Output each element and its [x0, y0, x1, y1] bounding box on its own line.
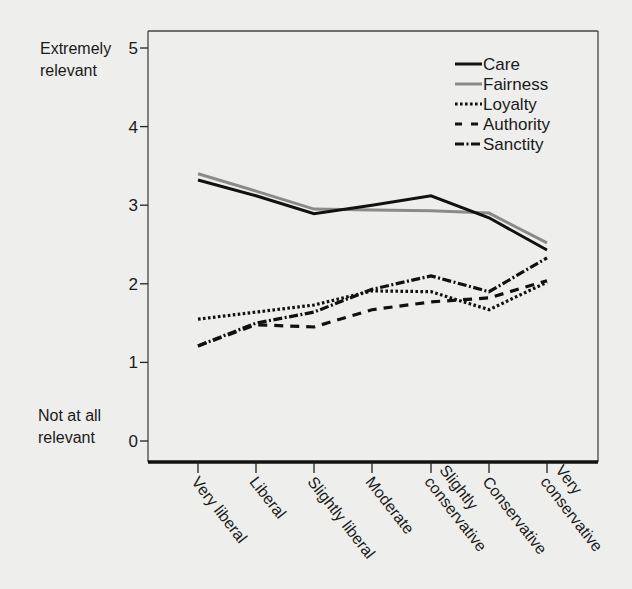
- legend-item-care: Care: [455, 55, 520, 74]
- legend-label: Loyalty: [483, 95, 537, 114]
- y-anchor-label-bottom: relevant: [38, 429, 95, 446]
- y-tick-label: 0: [129, 432, 138, 451]
- x-tick-label: Moderate: [362, 473, 417, 537]
- x-tick-label: Liberal: [246, 473, 289, 521]
- svg-text:Moderate: Moderate: [362, 473, 417, 537]
- y-tick-label: 3: [129, 196, 138, 215]
- legend-label: Sanctity: [483, 135, 544, 154]
- series-fairness-line: [198, 174, 547, 243]
- chart: 012345ExtremelyrelevantNot at allrelevan…: [0, 0, 632, 589]
- y-tick-label: 5: [129, 39, 138, 58]
- legend-label: Fairness: [483, 75, 548, 94]
- x-axis: Very liberalLiberalSlightly liberalModer…: [188, 462, 621, 562]
- data-lines: [198, 174, 547, 346]
- y-axis: 012345ExtremelyrelevantNot at allrelevan…: [38, 39, 148, 451]
- legend-item-authority: Authority: [455, 115, 551, 134]
- svg-text:Very liberal: Very liberal: [188, 473, 250, 546]
- y-tick-label: 2: [129, 275, 138, 294]
- x-tick-label: Very liberal: [188, 473, 250, 546]
- series-sanctity-line: [198, 258, 547, 346]
- y-anchor-label-top: Extremely: [40, 40, 111, 57]
- y-tick-label: 4: [129, 118, 138, 137]
- legend-item-loyalty: Loyalty: [455, 95, 537, 114]
- line-chart: 012345ExtremelyrelevantNot at allrelevan…: [0, 0, 632, 589]
- y-anchor-label-top: relevant: [40, 62, 97, 79]
- legend-label: Authority: [483, 115, 551, 134]
- legend-label: Care: [483, 55, 520, 74]
- x-tick-label: Veryconservative: [537, 462, 621, 555]
- svg-text:Liberal: Liberal: [246, 473, 289, 521]
- legend-item-sanctity: Sanctity: [455, 135, 544, 154]
- legend-item-fairness: Fairness: [455, 75, 548, 94]
- y-tick-label: 1: [129, 353, 138, 372]
- legend: CareFairnessLoyaltyAuthoritySanctity: [455, 55, 551, 154]
- y-anchor-label-bottom: Not at all: [38, 407, 101, 424]
